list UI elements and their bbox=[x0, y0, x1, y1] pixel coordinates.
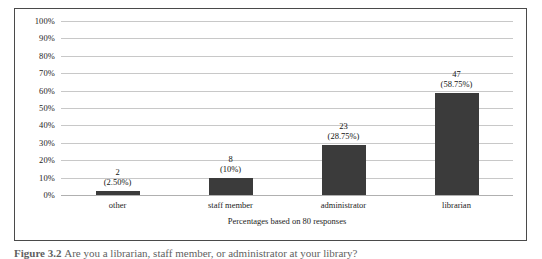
ytick-label-100: 100% bbox=[35, 16, 55, 26]
bar-other[interactable] bbox=[96, 191, 140, 195]
bar-administrator[interactable] bbox=[322, 145, 366, 195]
figure-caption-lead: Figure 3.2 bbox=[14, 247, 61, 259]
bar-label-librarian: 47 (58.75%) bbox=[441, 69, 473, 90]
bar-count-administrator: 23 bbox=[328, 121, 360, 132]
xtick-label-staff-member: staff member bbox=[208, 200, 253, 210]
ytick-label-70: 70% bbox=[39, 68, 55, 78]
bar-staff-member[interactable] bbox=[209, 178, 253, 195]
bar-percent-staff-member: (10%) bbox=[220, 164, 241, 175]
bar-percent-librarian: (58.75%) bbox=[441, 79, 473, 90]
figure-caption: Figure 3.2 Are you a librarian, staff me… bbox=[14, 247, 534, 259]
ytick-label-40: 40% bbox=[39, 120, 55, 130]
bar-label-other: 2 (2.50%) bbox=[104, 167, 132, 188]
ytick-label-80: 80% bbox=[39, 51, 55, 61]
bar-librarian[interactable] bbox=[435, 93, 479, 195]
bar-label-staff-member: 8 (10%) bbox=[220, 154, 241, 175]
ytick-label-20: 20% bbox=[39, 155, 55, 165]
bar-percent-administrator: (28.75%) bbox=[328, 131, 360, 142]
bar-group-other: 2 (2.50%) other bbox=[61, 21, 174, 195]
x-axis-title: Percentages based on 80 responses bbox=[61, 216, 513, 226]
ytick-label-50: 50% bbox=[39, 103, 55, 113]
ytick-label-90: 90% bbox=[39, 33, 55, 43]
ytick-label-60: 60% bbox=[39, 86, 55, 96]
ytick-label-0: 0% bbox=[43, 190, 55, 200]
gridline-0-baseline: 0% bbox=[61, 195, 513, 196]
ytick-label-30: 30% bbox=[39, 138, 55, 148]
xtick-label-librarian: librarian bbox=[442, 200, 471, 210]
bar-count-staff-member: 8 bbox=[220, 154, 241, 165]
bar-percent-other: (2.50%) bbox=[104, 177, 132, 188]
chart-plot-area: 100% 90% 80% 70% 60% 50% 40% 30% 20% 10% bbox=[61, 21, 513, 195]
bar-count-other: 2 bbox=[104, 167, 132, 178]
bar-group-librarian: 47 (58.75%) librarian bbox=[400, 21, 513, 195]
bar-count-librarian: 47 bbox=[441, 69, 473, 80]
bar-group-administrator: 23 (28.75%) administrator bbox=[287, 21, 400, 195]
xtick-label-other: other bbox=[109, 200, 126, 210]
bar-group-staff-member: 8 (10%) staff member bbox=[174, 21, 287, 195]
ytick-label-10: 10% bbox=[39, 173, 55, 183]
figure-frame: 100% 90% 80% 70% 60% 50% 40% 30% 20% 10% bbox=[14, 8, 527, 241]
xtick-label-administrator: administrator bbox=[321, 200, 366, 210]
figure-caption-text: Are you a librarian, staff member, or ad… bbox=[64, 247, 357, 259]
bar-label-administrator: 23 (28.75%) bbox=[328, 121, 360, 142]
